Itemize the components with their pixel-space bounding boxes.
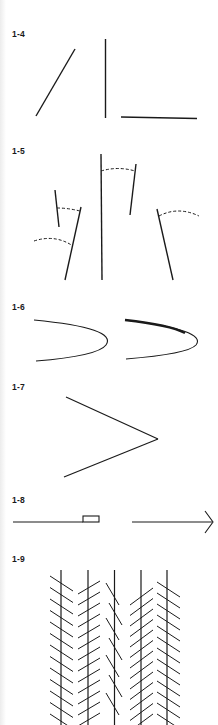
hatch-mark (78, 680, 100, 693)
figure-1-4 (36, 39, 197, 119)
small-rectangle (83, 516, 99, 522)
chevron-lower-line (64, 439, 158, 477)
hatch-mark (78, 592, 100, 605)
oblique-line (36, 49, 75, 116)
center-vertical-line (101, 154, 102, 280)
hatch-mark (109, 603, 122, 625)
hatch-mark (78, 713, 100, 725)
hatch-mark (78, 691, 100, 704)
hatch-mark (78, 647, 100, 660)
tilted-line (65, 207, 81, 280)
hatch-mark (78, 658, 100, 671)
hatch-mark (78, 603, 100, 616)
hatch-mark (106, 583, 119, 605)
dashed-arc (101, 169, 135, 172)
thickened-stroke (125, 320, 185, 333)
hatch-mark (78, 669, 100, 682)
hatch-mark (78, 614, 100, 627)
figure-1-8 (13, 511, 213, 533)
chevron-upper-line (66, 397, 158, 439)
dashed-arc (34, 238, 73, 246)
dashed-arc (159, 211, 199, 216)
hatch-mark (109, 638, 122, 660)
horizontal-line (121, 117, 197, 119)
hatch-mark (109, 675, 122, 697)
figure-drawings (0, 0, 218, 725)
figure-1-6 (34, 320, 198, 361)
dashed-arc (57, 208, 80, 211)
hatch-mark (106, 655, 119, 677)
hatch-mark (106, 693, 119, 715)
hatch-mark (78, 581, 100, 594)
hatch-mark (106, 618, 119, 640)
figure-page: 1-4 1-5 1-6 1-7 1-8 1-9 (0, 0, 218, 725)
figure-1-9 (50, 570, 180, 725)
tilted-line (130, 164, 136, 215)
tilted-line (157, 209, 173, 280)
hatch-mark (78, 702, 100, 715)
hatch-mark (78, 636, 100, 649)
figure-1-5 (34, 154, 199, 280)
hatch-mark (78, 625, 100, 638)
curved-angle (34, 320, 108, 361)
figure-1-7 (64, 397, 158, 477)
